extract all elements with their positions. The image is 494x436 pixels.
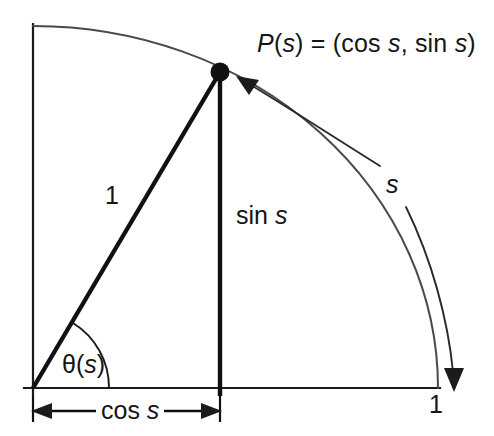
point-p-comma-sin: , sin (401, 29, 455, 57)
cosine-variable: s (147, 396, 160, 424)
sine-label: sin s (236, 203, 287, 228)
point-p-label: P(s) = (cos s, sin s) (257, 31, 476, 56)
point-p-cos-arg: s (388, 29, 401, 57)
figure-canvas: P(s) = (cos s, sin s) sin s 1 θ(s) s cos… (0, 0, 494, 436)
point-p-equals-cos: = (cos (304, 29, 388, 57)
theta-symbol: θ (62, 350, 76, 378)
cos-dim-arrowhead-left (31, 403, 52, 419)
radius-length-label: 1 (105, 183, 119, 208)
point-p-close-paren: ) (295, 29, 304, 57)
angle-label: θ(s) (62, 352, 105, 377)
sine-function-text: sin (236, 201, 275, 229)
x-axis-endpoint-label: 1 (429, 392, 443, 417)
theta-variable: s (84, 350, 97, 378)
theta-close-paren: ) (97, 350, 105, 378)
point-p-final-paren: ) (467, 29, 476, 57)
sine-variable: s (275, 201, 288, 229)
arc-length-arrow-outer (406, 207, 453, 372)
point-p-marker (211, 63, 230, 82)
arc-length-arrow-inner (246, 82, 380, 166)
radius-segment (33, 72, 220, 388)
point-p-symbol: P (257, 29, 274, 57)
cosine-function-text: cos (101, 396, 147, 424)
arc-length-arrowhead-down (444, 368, 464, 392)
cosine-label: cos s (96, 398, 164, 423)
point-p-sin-arg: s (455, 29, 468, 57)
theta-open-paren: ( (76, 350, 84, 378)
arc-length-label: s (386, 172, 399, 197)
point-p-arg: s (282, 29, 295, 57)
cos-dim-arrowhead-right (201, 403, 222, 419)
